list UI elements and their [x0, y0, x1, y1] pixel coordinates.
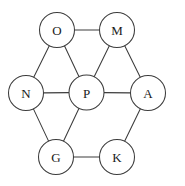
graph-edge-p-g [63, 108, 79, 141]
graph-edge-n-g [33, 109, 48, 141]
graph-node-label-g: G [51, 150, 60, 165]
graph-figure: OMNPAGK [0, 0, 185, 186]
graph-edge-m-p [94, 46, 109, 77]
graph-edge-o-n [34, 46, 50, 78]
graph-node-a[interactable]: A [131, 76, 166, 111]
graph-node-g[interactable]: G [39, 140, 74, 175]
graph-node-label-a: A [143, 86, 153, 101]
graph-canvas: OMNPAGK [0, 0, 185, 186]
graph-node-label-o: O [52, 23, 61, 38]
graph-edge-a-k [125, 109, 141, 142]
graph-node-label-k: K [112, 150, 122, 165]
graph-node-label-n: N [21, 86, 31, 101]
graph-node-p[interactable]: P [69, 75, 104, 110]
graph-node-o[interactable]: O [40, 13, 75, 48]
graph-node-label-p: P [83, 86, 90, 101]
graph-edge-m-a [125, 46, 141, 78]
graph-node-n[interactable]: N [9, 76, 44, 111]
graph-edge-o-p [64, 46, 79, 77]
graph-node-k[interactable]: K [100, 140, 135, 175]
graph-node-m[interactable]: M [100, 13, 135, 48]
graph-node-label-m: M [111, 23, 123, 38]
node-layer: OMNPAGK [9, 13, 166, 175]
